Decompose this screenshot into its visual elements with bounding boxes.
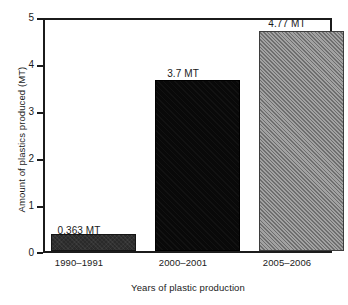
bar-value-label-2005-2006: 4.77 MT <box>227 18 347 29</box>
y-tick-label-3: 3 <box>16 107 34 117</box>
bar-value-label-2000-2001: 3.7 MT <box>123 68 243 79</box>
y-axis-title: Amount of plastics produced (MT) <box>16 25 27 255</box>
y-tick-label-5: 5 <box>16 13 34 23</box>
x-tick-label-1990-1991: 1990–1991 <box>19 257 139 268</box>
y-tick-label-1: 1 <box>16 201 34 211</box>
bar-chart-figure: Amount of plastics produced (MT) 5 4 3 2… <box>0 0 348 305</box>
y-tick-label-2: 2 <box>16 154 34 164</box>
bar-2000-2001 <box>155 80 240 251</box>
x-axis-title: Years of plastic production <box>43 282 333 293</box>
bar-1990-1991 <box>51 234 136 251</box>
plot-area <box>43 18 332 253</box>
x-tick-label-2005-2006: 2005–2006 <box>227 257 347 268</box>
x-tick-label-2000-2001: 2000–2001 <box>123 257 243 268</box>
bar-2005-2006 <box>259 31 344 251</box>
y-tick-label-4: 4 <box>16 60 34 70</box>
bar-value-label-1990-1991: 0.363 MT <box>19 225 139 236</box>
